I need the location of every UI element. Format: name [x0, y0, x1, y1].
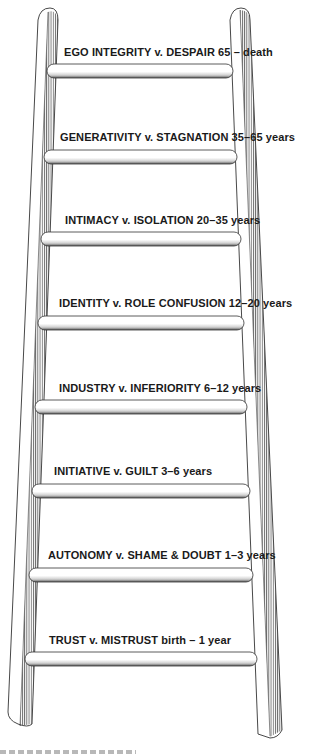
rung-3: [41, 232, 241, 246]
stage-age: 3–6 years: [161, 465, 212, 477]
stage-age: 6–12 years: [204, 382, 261, 394]
stage-label-trust: TRUST v. MISTRUST birth – 1 year: [49, 634, 231, 646]
stage-conflict: TRUST v. MISTRUST: [49, 634, 158, 646]
stage-age: 20–35 years: [197, 214, 261, 226]
stage-label-ego-integrity: EGO INTEGRITY v. DESPAIR 65 – death: [64, 46, 273, 58]
rung-1: [47, 64, 233, 78]
stage-age: 1–3 years: [225, 549, 276, 561]
rung-8: [25, 652, 257, 666]
stage-age: birth – 1 year: [161, 634, 231, 646]
stage-label-identity: IDENTITY v. ROLE CONFUSION 12–20 years: [59, 297, 292, 309]
stage-label-autonomy: AUTONOMY v. SHAME & DOUBT 1–3 years: [48, 549, 276, 561]
stage-conflict: EGO INTEGRITY v. DESPAIR: [64, 46, 215, 58]
rungs: [25, 64, 257, 666]
rung-2: [44, 150, 237, 164]
clipped-caption: [0, 750, 140, 754]
right-rail: [230, 8, 282, 738]
stage-conflict: AUTONOMY v. SHAME & DOUBT: [48, 549, 222, 561]
stage-conflict: INTIMACY v. ISOLATION: [65, 214, 194, 226]
rung-5: [35, 400, 247, 414]
stage-age: 12–20 years: [229, 297, 293, 309]
stage-age: 65 – death: [218, 46, 273, 58]
stage-conflict: INDUSTRY v. INFERIORITY: [59, 382, 201, 394]
rung-6: [32, 484, 250, 498]
stage-conflict: IDENTITY v. ROLE CONFUSION: [59, 297, 226, 309]
stage-label-generativity: GENERATIVITY v. STAGNATION 35–65 years: [60, 131, 295, 143]
stage-conflict: GENERATIVITY v. STAGNATION: [60, 131, 228, 143]
left-rail: [8, 8, 58, 726]
stage-label-intimacy: INTIMACY v. ISOLATION 20–35 years: [65, 214, 260, 226]
stage-label-industry: INDUSTRY v. INFERIORITY 6–12 years: [59, 382, 261, 394]
rung-7: [29, 568, 253, 582]
stage-label-initiative: INITIATIVE v. GUILT 3–6 years: [54, 465, 212, 477]
stage-age: 35–65 years: [232, 131, 296, 143]
rung-4: [38, 316, 244, 330]
stage-conflict: INITIATIVE v. GUILT: [54, 465, 158, 477]
